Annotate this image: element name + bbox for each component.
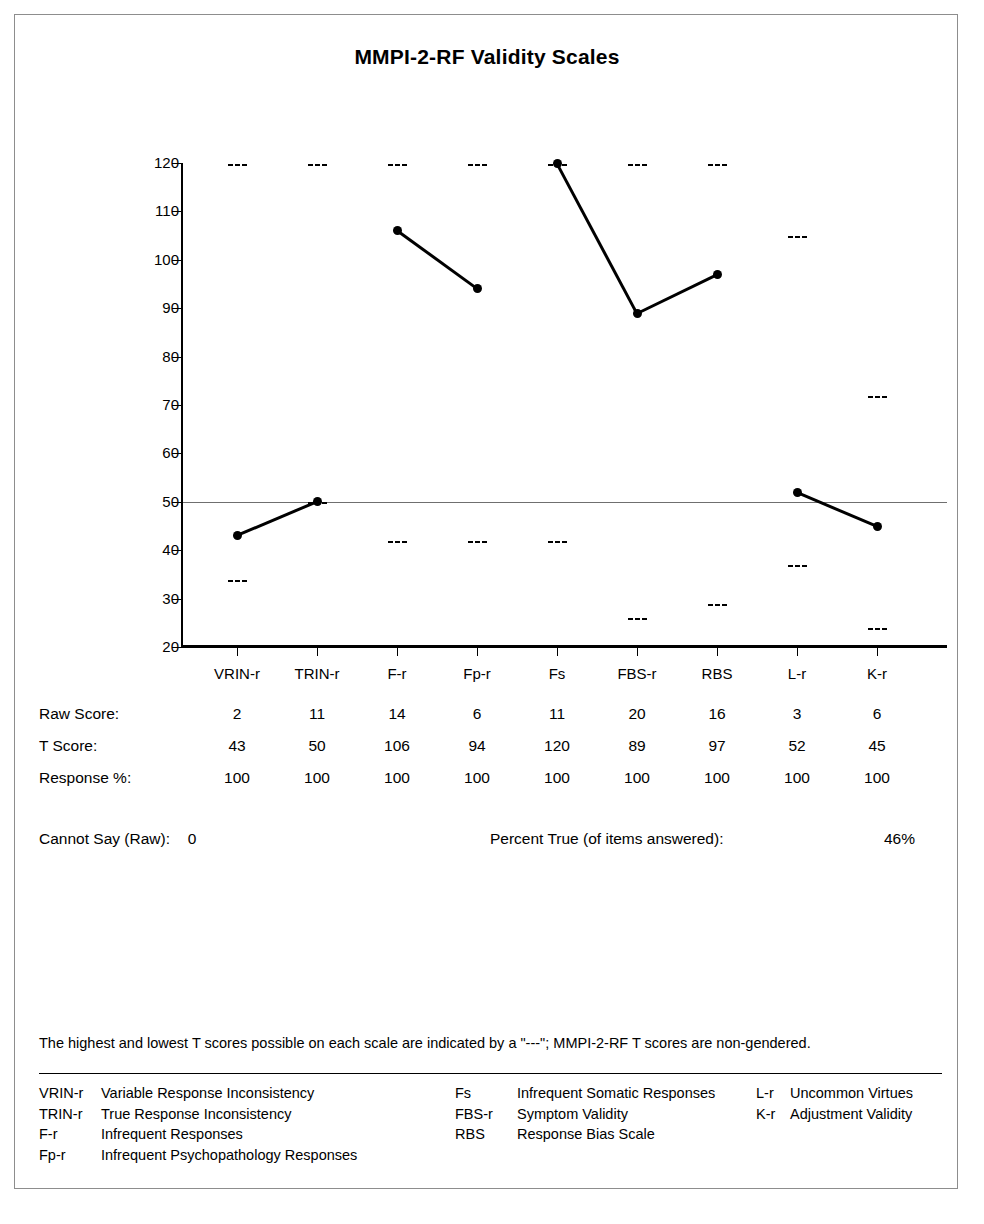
key-row: TRIN-rTrue Response Inconsistency — [39, 1106, 357, 1127]
data-point-k-r — [873, 522, 882, 531]
percent-true-value: 46% — [884, 830, 915, 848]
cannot-say-row: Cannot Say (Raw): 0 Percent True (of ite… — [39, 830, 939, 858]
key-column-3: L-rUncommon VirtuesK-rAdjustment Validit… — [756, 1085, 913, 1126]
data-point-vrin-r — [233, 531, 242, 540]
table-cell: 16 — [682, 705, 752, 723]
series-segment — [636, 273, 717, 314]
x-tick — [477, 648, 478, 656]
table-cell: 43 — [202, 737, 272, 755]
min-limit-marker — [544, 539, 570, 542]
key-row: FsInfrequent Somatic Responses — [455, 1085, 715, 1106]
table-cell: 120 — [522, 737, 592, 755]
key-description: Adjustment Validity — [790, 1106, 912, 1122]
min-limit-marker — [784, 563, 810, 566]
key-abbreviation: Fs — [455, 1085, 517, 1101]
key-column-2: FsInfrequent Somatic ResponsesFBS-rSympt… — [455, 1085, 715, 1147]
table-cell: 100 — [202, 769, 272, 787]
x-axis-label-vrin-r: VRIN-r — [192, 665, 282, 682]
key-abbreviation: TRIN-r — [39, 1106, 101, 1122]
row-label: Response %: — [39, 769, 131, 787]
max-limit-marker — [224, 162, 250, 165]
table-cell: 11 — [282, 705, 352, 723]
min-limit-marker — [624, 616, 650, 619]
x-tick — [237, 648, 238, 656]
key-description: Symptom Validity — [517, 1106, 628, 1122]
table-cell: 11 — [522, 705, 592, 723]
report-page: MMPI-2-RF Validity Scales 20304050607080… — [0, 0, 984, 1224]
table-row: Raw Score:21114611201636 — [39, 705, 939, 737]
key-abbreviation: VRIN-r — [39, 1085, 101, 1101]
x-tick — [797, 648, 798, 656]
x-axis-label-l-r: L-r — [752, 665, 842, 682]
data-point-fs — [553, 159, 562, 168]
min-limit-marker — [864, 626, 890, 629]
table-cell: 97 — [682, 737, 752, 755]
key-abbreviation: K-r — [756, 1106, 790, 1122]
key-description: Variable Response Inconsistency — [101, 1085, 314, 1101]
table-cell: 100 — [762, 769, 832, 787]
max-limit-marker — [784, 234, 810, 237]
key-abbreviation: L-r — [756, 1085, 790, 1101]
min-limit-marker — [224, 578, 250, 581]
x-tick — [317, 648, 318, 656]
y-tick-label: 20 — [139, 639, 179, 654]
row-label: T Score: — [39, 737, 97, 755]
key-row: F-rInfrequent Responses — [39, 1126, 357, 1147]
x-axis-label-fs: Fs — [512, 665, 602, 682]
key-row: VRIN-rVariable Response Inconsistency — [39, 1085, 357, 1106]
y-tick-label: 100 — [139, 252, 179, 267]
x-axis-label-f-r: F-r — [352, 665, 442, 682]
table-cell: 14 — [362, 705, 432, 723]
y-axis — [181, 163, 183, 647]
key-description: Infrequent Responses — [101, 1126, 243, 1142]
max-limit-marker — [704, 162, 730, 165]
x-tick — [637, 648, 638, 656]
x-axis-label-k-r: K-r — [832, 665, 922, 682]
x-axis — [181, 645, 947, 648]
key-description: Uncommon Virtues — [790, 1085, 913, 1101]
table-cell: 100 — [282, 769, 352, 787]
table-cell: 100 — [522, 769, 592, 787]
y-tick-label: 70 — [139, 397, 179, 412]
table-cell: 106 — [362, 737, 432, 755]
data-point-fbs-r — [633, 309, 642, 318]
table-cell: 94 — [442, 737, 512, 755]
key-abbreviation: FBS-r — [455, 1106, 517, 1122]
cannot-say-label: Cannot Say (Raw): — [39, 830, 170, 848]
table-cell: 100 — [682, 769, 752, 787]
key-divider — [39, 1073, 942, 1074]
table-cell: 100 — [602, 769, 672, 787]
y-tick-label: 80 — [139, 349, 179, 364]
key-description: Infrequent Psychopathology Responses — [101, 1147, 357, 1163]
series-segment — [796, 491, 877, 527]
table-cell: 2 — [202, 705, 272, 723]
max-limit-marker — [464, 162, 490, 165]
x-axis-label-fbs-r: FBS-r — [592, 665, 682, 682]
y-tick-label: 50 — [139, 494, 179, 509]
table-cell: 52 — [762, 737, 832, 755]
report-frame: MMPI-2-RF Validity Scales 20304050607080… — [14, 14, 958, 1189]
x-tick — [397, 648, 398, 656]
data-point-rbs — [713, 270, 722, 279]
footnote-text: The highest and lowest T scores possible… — [39, 1035, 939, 1051]
table-cell: 6 — [442, 705, 512, 723]
y-tick-label: 90 — [139, 300, 179, 315]
max-limit-marker — [624, 162, 650, 165]
data-point-trin-r — [313, 497, 322, 506]
key-row: RBSResponse Bias Scale — [455, 1126, 715, 1147]
page-title: MMPI-2-RF Validity Scales — [15, 45, 959, 69]
row-label: Raw Score: — [39, 705, 119, 723]
table-row: Response %:100100100100100100100100100 — [39, 769, 939, 801]
x-axis-label-rbs: RBS — [672, 665, 762, 682]
x-axis-label-fp-r: Fp-r — [432, 665, 522, 682]
table-cell: 100 — [442, 769, 512, 787]
key-description: Response Bias Scale — [517, 1126, 655, 1142]
x-tick — [877, 648, 878, 656]
series-segment — [396, 230, 478, 290]
x-axis-label-trin-r: TRIN-r — [272, 665, 362, 682]
reference-line — [183, 502, 947, 503]
max-limit-marker — [384, 162, 410, 165]
x-tick — [717, 648, 718, 656]
x-tick — [557, 648, 558, 656]
min-limit-marker — [384, 539, 410, 542]
